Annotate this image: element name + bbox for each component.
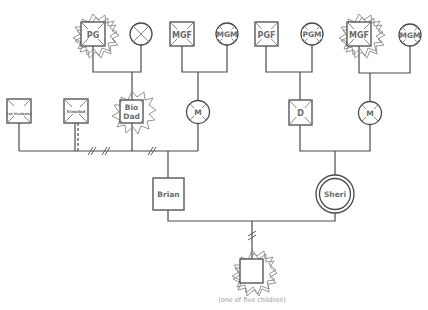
connector-lines <box>19 45 410 259</box>
person-bio-dad[interactable]: Bio Dad <box>120 100 143 123</box>
person-pg[interactable]: PG <box>81 22 105 46</box>
person-mgf-left[interactable]: MGF <box>170 22 194 46</box>
person-mgm-right[interactable]: MGM <box>399 24 421 46</box>
person-sheri[interactable]: Sheri <box>316 175 354 213</box>
person-label: PGF <box>258 31 276 40</box>
person-label: PGM <box>302 30 321 39</box>
person-label: Brian <box>157 190 179 199</box>
person-label: 1st Husband <box>6 112 32 116</box>
person-label: Stepdad <box>67 109 86 114</box>
person-stepdad[interactable]: Stepdad <box>64 99 88 123</box>
person-mgm-left[interactable]: MGM <box>216 23 238 45</box>
person-label: MGM <box>399 31 420 40</box>
person-label: PG <box>87 31 99 40</box>
person-d[interactable]: D <box>289 100 312 125</box>
person-first-husband[interactable]: 1st Husband <box>6 99 32 123</box>
person-child[interactable] <box>240 259 263 283</box>
person-pgm[interactable]: PGM <box>301 23 323 45</box>
person-m-left[interactable]: M <box>187 101 210 124</box>
person-label: M <box>194 108 201 117</box>
person-label: D <box>297 109 304 118</box>
person-mgf-right[interactable]: MGF <box>347 22 371 46</box>
person-label: M <box>366 109 373 118</box>
person-label-line1: Bio <box>125 103 138 112</box>
person-brian[interactable]: Brian <box>153 178 184 210</box>
person-m-right[interactable]: M <box>359 102 382 125</box>
person-label-line2: Dad <box>123 112 140 121</box>
person-label: MGF <box>349 31 369 40</box>
child-caption: (one of five children) <box>218 296 286 304</box>
person-label: Sheri <box>324 190 346 199</box>
person-label: MGM <box>216 30 237 39</box>
person-pgf[interactable]: PGF <box>255 22 278 46</box>
genogram-diagram: PG MGF MGM PGF PGM <box>0 0 428 310</box>
person-label: MGF <box>172 31 192 40</box>
person-paternal-grandmother[interactable] <box>130 23 152 45</box>
